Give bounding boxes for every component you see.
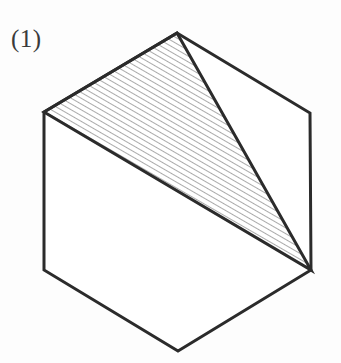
figure-label: (1)	[11, 26, 42, 51]
geometry-figure	[0, 0, 341, 363]
figure-canvas: (1)	[0, 0, 341, 363]
